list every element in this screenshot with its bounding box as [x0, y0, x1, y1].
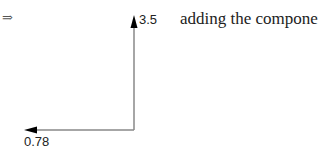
- horizontal-component-label: 0.78: [24, 134, 49, 149]
- caption-text: adding the components: [180, 9, 318, 29]
- up-arrowhead-icon: [131, 15, 138, 28]
- vertical-component-label: 3.5: [139, 12, 157, 27]
- left-arrowhead-icon: [24, 127, 37, 134]
